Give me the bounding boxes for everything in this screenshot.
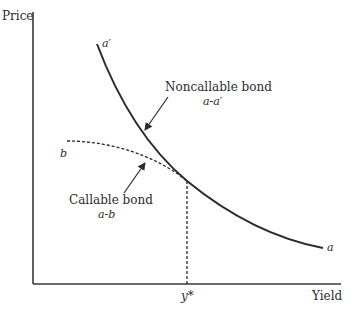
a-prime-label: a′ [102,37,111,51]
noncallable-bond-curve [97,44,323,248]
diagram-graphics [0,0,354,314]
a-label: a [327,241,334,255]
noncallable-bond-label: Noncallable bond [165,80,272,94]
noncallable-arrow [145,97,168,130]
callable-bond-sublabel: a-b [98,208,115,222]
y-axis-label: Price [2,9,33,23]
b-label: b [60,147,67,161]
price-yield-diagram: Price Yield y* a′ a b Noncallable bond a… [0,0,354,314]
callable-bond-label: Callable bond [69,193,153,207]
callable-arrow [124,163,145,193]
noncallable-bond-sublabel: a-a′ [203,95,222,109]
ystar-label: y* [181,289,194,303]
x-axis-label: Yield [312,289,342,303]
callable-bond-curve [67,141,187,181]
